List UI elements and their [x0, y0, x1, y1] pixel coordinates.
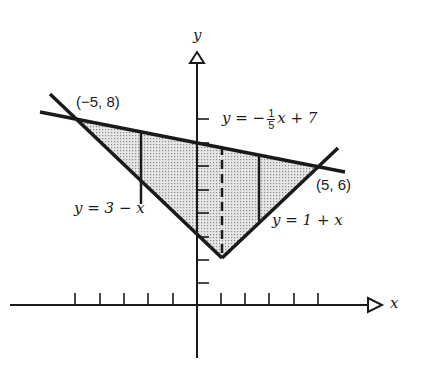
point-label-neg5-8: (−5, 8) [76, 93, 120, 110]
y-axis-arrow-icon [190, 52, 204, 63]
graph-canvas [0, 0, 447, 376]
fraction-one-fifth: 15 [267, 108, 275, 131]
line-label-1-plus-x: y = 1 + x [272, 211, 343, 229]
line-label-top-lhs: y = − [222, 109, 265, 127]
line-label-3-minus-x: y = 3 − x [74, 199, 145, 217]
x-axis-arrow-icon [368, 298, 382, 312]
point-label-5-6: (5, 6) [316, 176, 351, 193]
x-axis-label: x [390, 294, 398, 312]
line-label-top: y = −15x + 7 [222, 108, 317, 131]
y-axis-label: y [193, 26, 201, 44]
line-label-top-rhs: x + 7 [277, 109, 317, 127]
